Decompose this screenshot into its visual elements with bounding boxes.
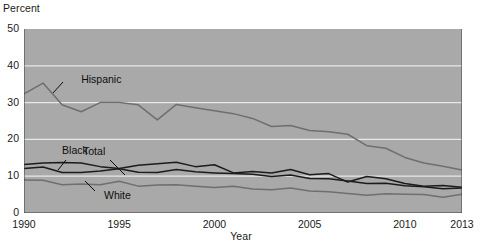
chart-canvas (24, 29, 462, 213)
x-tick-label-2013: 2013 (442, 218, 482, 230)
x-tick-label-2010: 2010 (385, 218, 425, 230)
x-tick-label-2005: 2005 (290, 218, 330, 230)
y-tick-label-40: 40 (0, 59, 19, 71)
callout-leader-black (58, 160, 66, 170)
callout-leader-white (85, 181, 95, 191)
y-tick-label-50: 50 (0, 22, 19, 34)
y-tick-label-0: 0 (0, 206, 19, 218)
x-axis-title: Year (0, 230, 482, 242)
series-label-black: Black (62, 144, 88, 156)
series-label-white: White (104, 189, 131, 201)
y-tick-label-20: 20 (0, 132, 19, 144)
y-tick-label-30: 30 (0, 96, 19, 108)
x-tick-label-2000: 2000 (194, 218, 234, 230)
series-line-white (24, 180, 462, 197)
plot-area (24, 29, 462, 213)
x-tick-label-1995: 1995 (99, 218, 139, 230)
series-label-hispanic: Hispanic (81, 73, 121, 85)
x-tick-label-1990: 1990 (4, 218, 44, 230)
callout-leader-hispanic (53, 82, 63, 93)
chart-figure: Percent 01020304050 19901995200020052010… (0, 0, 482, 248)
y-tick-label-10: 10 (0, 169, 19, 181)
series-line-hispanic (24, 83, 462, 170)
y-axis-title: Percent (3, 2, 40, 14)
